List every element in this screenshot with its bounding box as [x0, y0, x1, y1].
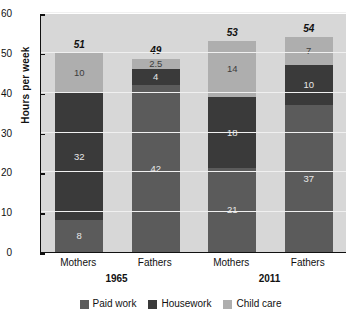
legend-item[interactable]: Child care	[223, 299, 281, 309]
bar-segment-housework[interactable]: 10	[285, 65, 333, 105]
bar-segment-paid-work[interactable]: 21	[208, 168, 256, 252]
y-axis-tick-mark	[40, 134, 45, 136]
y-axis-tick-mark	[40, 94, 45, 96]
bar-stack[interactable]: 21181453	[208, 13, 256, 252]
bar-segment-value: 10	[303, 80, 314, 90]
y-axis-tick-mark	[40, 54, 45, 56]
x-axis-label: Fathers	[275, 257, 341, 268]
bar-segment-value: 4	[153, 72, 158, 82]
stacked-bar-chart: Hours per week 83210514242.5492118145337…	[0, 0, 361, 317]
legend-label: Housework	[161, 299, 211, 309]
legend-label: Child care	[236, 299, 281, 309]
y-axis-tick-label: 40	[0, 89, 12, 99]
y-axis-tick-mark	[40, 14, 45, 16]
bar-segment-value: 8	[77, 231, 82, 241]
bar-total-label: 49	[132, 45, 180, 56]
bar-stack[interactable]: 3710754	[285, 13, 333, 252]
bar-segment-housework[interactable]: 4	[132, 69, 180, 85]
gridline	[41, 211, 346, 212]
x-axis-group-labels: 19652011	[40, 273, 346, 287]
bar-segment-value: 32	[74, 152, 85, 162]
bar-total-label: 54	[285, 23, 333, 34]
y-axis-tick-label: 50	[0, 49, 12, 59]
y-axis-tick-label: 10	[0, 208, 12, 218]
y-axis-tick-mark	[40, 173, 45, 175]
bar-segment-value: 21	[227, 205, 238, 215]
bar-segment-child-care[interactable]: 10	[55, 53, 103, 93]
y-axis-title: Hours per week	[20, 20, 34, 150]
bar-segment-value: 10	[74, 68, 85, 78]
x-axis-labels: MothersFathersMothersFathers	[40, 257, 346, 271]
bar-segment-paid-work[interactable]: 8	[55, 220, 103, 252]
x-axis-label: Mothers	[45, 257, 111, 268]
bar-total-label: 51	[55, 39, 103, 50]
gridline	[41, 132, 346, 133]
legend-item[interactable]: Housework	[148, 299, 211, 309]
bar-total-label: 53	[208, 27, 256, 38]
y-axis-tick-mark	[40, 253, 45, 255]
gridline	[41, 92, 346, 93]
x-axis-group-label: 2011	[220, 273, 320, 284]
bar-segment-housework[interactable]: 18	[208, 97, 256, 169]
legend-swatch-icon	[223, 300, 232, 309]
bar-segment-paid-work[interactable]: 42	[132, 85, 180, 252]
y-axis-tick-label: 60	[0, 9, 12, 19]
bar-segment-paid-work[interactable]: 37	[285, 105, 333, 252]
bar-segment-child-care[interactable]: 14	[208, 41, 256, 97]
x-axis-label: Mothers	[198, 257, 264, 268]
x-axis-label: Fathers	[122, 257, 188, 268]
legend-item[interactable]: Paid work	[80, 299, 137, 309]
legend-swatch-icon	[80, 300, 89, 309]
bar-segment-value: 37	[303, 174, 314, 184]
bar-segment-value: 14	[227, 64, 238, 74]
y-axis-tick-mark	[40, 213, 45, 215]
legend-swatch-icon	[148, 300, 157, 309]
bar-segment-child-care[interactable]: 2.5	[132, 59, 180, 69]
bar-segment-housework[interactable]: 32	[55, 93, 103, 220]
bar-group-container: 83210514242.549211814533710754	[41, 14, 346, 252]
gridline	[41, 12, 346, 13]
chart-legend: Paid workHouseworkChild care	[0, 296, 361, 312]
legend-label: Paid work	[93, 299, 137, 309]
gridline	[41, 52, 346, 53]
bar-stack[interactable]: 4242.549	[132, 13, 180, 252]
y-axis-tick-label: 30	[0, 129, 12, 139]
y-axis-tick-label: 0	[0, 248, 12, 258]
y-axis-tick-label: 20	[0, 168, 12, 178]
bar-stack[interactable]: 8321051	[55, 13, 103, 252]
x-axis-group-label: 1965	[67, 273, 167, 284]
gridline	[41, 171, 346, 172]
bar-segment-value: 18	[227, 128, 238, 138]
plot-area: 83210514242.549211814533710754	[40, 14, 346, 253]
bar-segment-value: 2.5	[149, 59, 162, 69]
